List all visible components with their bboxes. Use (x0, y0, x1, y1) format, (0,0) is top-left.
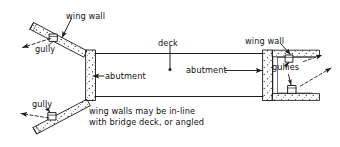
label-gully-top-left: gully (35, 44, 55, 54)
bridge-deck-diagram: wing wall gully gully abutment deck abut… (0, 0, 340, 147)
label-wing-wall-top-left: wing wall (66, 11, 105, 21)
leader-deck (169, 46, 172, 71)
gully-lower-left (48, 113, 56, 120)
leader-wing-wall-top-left (62, 19, 72, 38)
label-deck: deck (158, 38, 178, 48)
gully-upper-left (50, 34, 58, 41)
label-abutment-right: abutment (186, 65, 227, 75)
note-wing-walls-line1: wing walls may be in-line (89, 106, 195, 116)
abutment-right (263, 50, 273, 101)
note-wing-walls-line2: with bridge deck, or angled (89, 117, 204, 127)
wing-wall-lower-right (273, 94, 320, 101)
gully-lower-right (288, 86, 296, 94)
label-abutment-left: abutment (105, 71, 146, 81)
wing-wall-upper-right (273, 50, 320, 57)
drainage-arrow-right (301, 55, 332, 86)
abutment-left (86, 50, 96, 101)
label-wing-wall-right: wing wall (245, 36, 284, 46)
label-gully-bottom-left: gully (32, 99, 52, 109)
label-gullies-right: gullies (272, 62, 299, 72)
drainage-arrow-lower-left (21, 114, 49, 119)
